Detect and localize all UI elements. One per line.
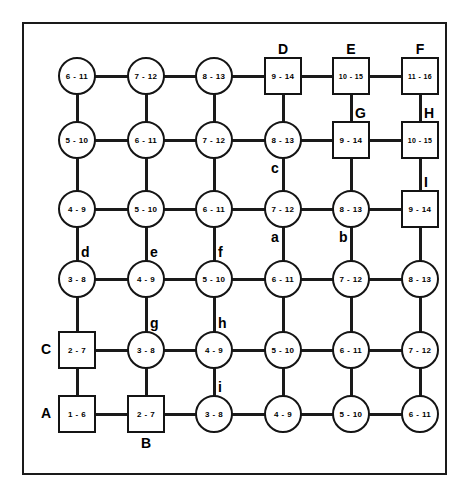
graph-node-r2c4[interactable]: 8 - 13 [332,190,370,228]
edge-horizontal [369,208,402,211]
graph-node-r3c2[interactable]: 5 - 10 [195,260,233,298]
node-value: 6 - 11 [66,72,88,81]
graph-node-r0c4[interactable]: 10 - 15 [332,57,370,95]
node-value: 6 - 11 [409,410,431,419]
graph-node-r4c3[interactable]: 5 - 10 [264,331,302,369]
graph-node-r2c1[interactable]: 5 - 10 [127,190,165,228]
node-value: 5 - 10 [340,410,363,419]
node-value: 3 - 8 [137,346,155,355]
node-label-d: d [81,244,90,260]
graph-node-r5c5[interactable]: 6 - 11 [401,395,439,433]
node-value: 8 - 13 [272,136,295,145]
graph-node-r5c2[interactable]: 3 - 8 [195,395,233,433]
edge-vertical [419,297,422,332]
node-label-f: f [218,244,223,260]
node-value: 10 - 15 [408,137,433,144]
diagram-frame: 6 - 117 - 128 - 139 - 14D10 - 15E11 - 16… [22,22,447,475]
node-value: 6 - 11 [272,275,294,284]
graph-node-r2c0[interactable]: 4 - 9 [58,190,96,228]
node-value: 8 - 13 [340,205,363,214]
node-label-D: D [278,41,288,57]
edge-horizontal [95,349,128,352]
graph-node-r4c1[interactable]: 3 - 8 [127,331,165,369]
node-label-F: F [416,41,425,57]
graph-node-r2c5[interactable]: 9 - 14 [401,190,439,228]
graph-node-r0c0[interactable]: 6 - 11 [58,57,96,95]
node-label-h: h [218,315,227,331]
node-value: 4 - 9 [137,275,155,284]
graph-node-r3c0[interactable]: 3 - 8 [58,260,96,298]
graph-node-r5c3[interactable]: 4 - 9 [264,395,302,433]
node-value: 5 - 10 [66,136,89,145]
graph-node-r1c4[interactable]: 9 - 14 [332,121,370,159]
node-label-C: C [41,341,51,357]
edge-horizontal [301,349,333,352]
node-value: 2 - 7 [68,346,86,355]
node-value: 9 - 14 [272,72,295,81]
node-value: 7 - 12 [409,346,432,355]
edge-horizontal [232,349,265,352]
edge-vertical [282,368,285,396]
graph-node-r0c5[interactable]: 11 - 16 [401,57,439,95]
node-value: 8 - 13 [409,275,432,284]
edge-vertical [76,368,79,396]
graph-node-r1c0[interactable]: 5 - 10 [58,121,96,159]
edge-vertical [282,297,285,332]
edge-horizontal [369,278,402,281]
node-value: 7 - 12 [203,136,226,145]
graph-node-r0c1[interactable]: 7 - 12 [127,57,165,95]
node-label-b: b [339,229,348,245]
edge-vertical [213,368,216,396]
graph-node-r4c0[interactable]: 2 - 7 [58,331,96,369]
edge-horizontal [164,208,196,211]
graph-node-r3c3[interactable]: 6 - 11 [264,260,302,298]
edge-vertical [419,158,422,191]
node-label-E: E [346,41,355,57]
node-label-I: I [424,174,428,190]
edge-horizontal [301,413,333,416]
graph-node-r2c2[interactable]: 6 - 11 [195,190,233,228]
graph-node-r1c1[interactable]: 6 - 11 [127,121,165,159]
graph-node-r3c1[interactable]: 4 - 9 [127,260,165,298]
graph-node-r1c3[interactable]: 8 - 13 [264,121,302,159]
edge-horizontal [232,208,265,211]
graph-node-r3c5[interactable]: 8 - 13 [401,260,439,298]
node-value: 3 - 8 [68,275,86,284]
edge-vertical [419,227,422,261]
diagram-canvas: 6 - 117 - 128 - 139 - 14D10 - 15E11 - 16… [0,0,470,500]
edge-vertical [282,227,285,261]
graph-node-r5c0[interactable]: 1 - 6 [58,395,96,433]
node-value: 6 - 11 [135,136,157,145]
graph-node-r1c2[interactable]: 7 - 12 [195,121,233,159]
graph-node-r0c2[interactable]: 8 - 13 [195,57,233,95]
edge-horizontal [301,208,333,211]
node-label-i: i [218,379,222,395]
node-value: 7 - 12 [272,205,295,214]
edge-vertical [350,94,353,122]
edge-vertical [350,158,353,191]
node-value: 9 - 14 [340,136,363,145]
edge-horizontal [95,278,128,281]
edge-horizontal [95,413,128,416]
edge-vertical [145,94,148,122]
graph-node-r3c4[interactable]: 7 - 12 [332,260,370,298]
node-label-B: B [141,435,151,451]
edge-vertical [282,158,285,191]
graph-node-r5c4[interactable]: 5 - 10 [332,395,370,433]
edge-vertical [76,297,79,332]
graph-node-r0c3[interactable]: 9 - 14 [264,57,302,95]
edge-vertical [282,94,285,122]
graph-node-r5c1[interactable]: 2 - 7 [127,395,165,433]
graph-node-r4c2[interactable]: 4 - 9 [195,331,233,369]
graph-node-r1c5[interactable]: 10 - 15 [401,121,439,159]
graph-node-r2c3[interactable]: 7 - 12 [264,190,302,228]
edge-vertical [145,297,148,332]
edge-vertical [213,158,216,191]
node-label-e: e [150,244,158,260]
node-value: 6 - 11 [203,205,225,214]
graph-node-r4c4[interactable]: 6 - 11 [332,331,370,369]
node-label-c: c [271,160,279,176]
graph-node-r4c5[interactable]: 7 - 12 [401,331,439,369]
edge-horizontal [301,278,333,281]
edge-horizontal [369,413,402,416]
